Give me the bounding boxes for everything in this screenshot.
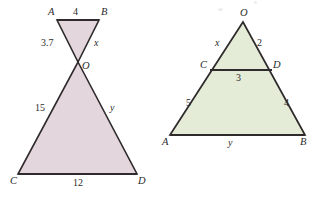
scan-artifact (254, 1, 257, 4)
triangle-abo-shape (57, 20, 99, 62)
segment-ca-length-label: 5 (186, 98, 191, 108)
vertex-label-c: C (10, 176, 17, 187)
geometry-figure-page: A B O C D 4 3.7 x 15 y 12 O C D A B x 2 … (0, 0, 316, 205)
segment-co-length-label: 15 (35, 103, 45, 113)
vertex-label-d: D (138, 176, 146, 187)
triangle-drawing (158, 0, 316, 205)
triangle-cdo-shape (18, 62, 137, 174)
bowtie-drawing (0, 0, 158, 205)
segment-cd-length-label: 3 (236, 73, 241, 83)
segment-db-length-label: 4 (284, 98, 289, 108)
vertex-label-b: B (101, 7, 107, 18)
segment-ab-length-label: 4 (73, 7, 78, 17)
vertex-label-a: A (48, 7, 54, 18)
segment-do-length-label: y (110, 103, 114, 113)
vertex-label-o: O (82, 61, 90, 72)
segment-od-length-label: 2 (257, 38, 262, 48)
segment-ab-length-label: y (228, 138, 232, 148)
vertex-label-a: A (162, 137, 168, 148)
segment-ao-length-label: 3.7 (41, 38, 54, 48)
vertex-label-b: B (300, 137, 306, 148)
segment-bo-length-label: x (94, 38, 98, 48)
scan-artifact (218, 8, 223, 11)
similar-triangles-figure: O C D A B x 2 3 5 4 y (158, 0, 316, 205)
segment-cd-length-label: 12 (73, 178, 83, 188)
vertex-label-c: C (200, 60, 207, 71)
vertex-label-d: D (273, 60, 281, 71)
vertical-angles-bowtie-figure: A B O C D 4 3.7 x 15 y 12 (0, 0, 158, 205)
vertex-label-o: O (240, 8, 248, 19)
segment-oc-length-label: x (215, 38, 219, 48)
